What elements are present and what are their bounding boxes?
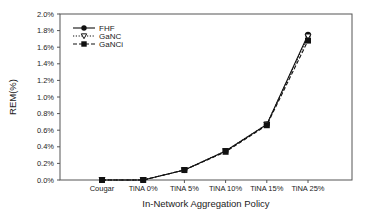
square-marker-icon bbox=[99, 177, 105, 183]
x-tick-label: TiNA 15% bbox=[250, 184, 283, 193]
x-tick-label: TiNA 5% bbox=[170, 184, 199, 193]
square-marker-icon bbox=[81, 41, 86, 46]
y-tick-label: 1.2% bbox=[37, 76, 54, 85]
y-tick-label: 0.8% bbox=[37, 109, 54, 118]
x-tick-label: Cougar bbox=[90, 184, 115, 193]
y-tick-label: 0.6% bbox=[37, 126, 54, 135]
square-marker-icon bbox=[223, 149, 229, 155]
circle-marker-icon bbox=[81, 25, 86, 30]
y-tick-label: 2.0% bbox=[37, 10, 54, 19]
y-tick-label: 1.0% bbox=[37, 93, 54, 102]
y-axis-title: REM(%) bbox=[7, 79, 18, 115]
legend-label: GaNCi bbox=[99, 40, 123, 49]
y-tick-label: 1.4% bbox=[37, 59, 54, 68]
x-tick-label: TiNA 0% bbox=[129, 184, 158, 193]
y-tick-label: 0.2% bbox=[37, 159, 54, 168]
y-axis: 0.0%0.2%0.4%0.6%0.8%1.0%1.2%1.4%1.6%1.8%… bbox=[37, 10, 60, 185]
y-tick-label: 1.6% bbox=[37, 43, 54, 52]
y-tick-label: 0.4% bbox=[37, 142, 54, 151]
y-tick-label: 1.8% bbox=[37, 26, 54, 35]
x-tick-label: TiNA 10% bbox=[209, 184, 242, 193]
square-marker-icon bbox=[264, 122, 270, 128]
square-marker-icon bbox=[140, 177, 146, 183]
x-tick-label: TiNA 25% bbox=[291, 184, 324, 193]
x-axis: CougarTiNA 0%TiNA 5%TiNA 10%TiNA 15%TiNA… bbox=[90, 180, 325, 193]
square-marker-icon bbox=[305, 38, 311, 44]
line-chart: 0.0%0.2%0.4%0.6%0.8%1.0%1.2%1.4%1.6%1.8%… bbox=[0, 0, 369, 218]
square-marker-icon bbox=[181, 167, 187, 173]
x-axis-title: In-Network Aggregation Policy bbox=[142, 198, 270, 209]
y-tick-label: 0.0% bbox=[37, 176, 54, 185]
